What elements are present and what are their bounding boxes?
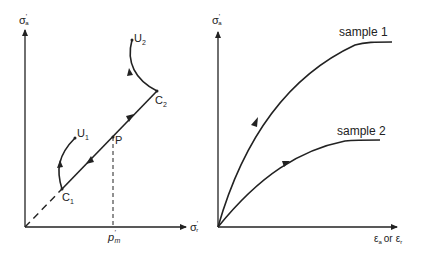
label-c2: C2 <box>155 94 167 108</box>
arrow-c2-u2-icon <box>127 68 133 76</box>
left-x-axis-label: σ'r <box>190 220 198 233</box>
sample-1-arrow-icon <box>251 117 258 127</box>
right-y-axis-label: σ'a <box>212 13 222 26</box>
label-p: P <box>115 134 122 146</box>
arrow-c1-u1-icon <box>57 160 63 168</box>
path-c2-u2 <box>130 40 157 91</box>
pm-label: p'm <box>107 229 120 244</box>
label-c1: C1 <box>62 191 74 205</box>
sample-2-label: sample 2 <box>337 124 386 138</box>
diagram-canvas: σ'a σ'r C1 P C2 U1 U2 <box>0 0 431 267</box>
label-u1: U1 <box>77 127 89 141</box>
dashed-extension-line <box>25 189 62 227</box>
consolidation-line <box>62 91 157 189</box>
sample-2-curve <box>218 140 380 227</box>
right-stress-strain-plot: σ'a εaorεr sample 1 sample 2 <box>212 13 402 245</box>
label-u2: U2 <box>134 32 146 46</box>
left-stress-path-plot: σ'a σ'r C1 P C2 U1 U2 <box>19 13 198 244</box>
left-y-axis-label: σ'a <box>19 13 29 26</box>
right-x-axis-label: εaorεr <box>374 233 402 245</box>
point-c2 <box>156 90 159 93</box>
sample-1-label: sample 1 <box>339 25 388 39</box>
